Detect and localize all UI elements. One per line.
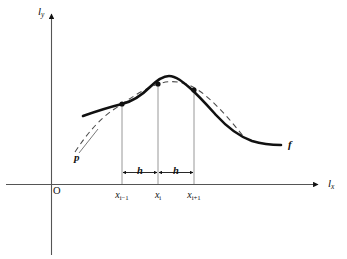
- origin-label: O: [53, 186, 61, 197]
- tick-label-x-i-minus-1: xi−1: [115, 190, 128, 201]
- sample-point-mid: [155, 81, 160, 86]
- sample-point-left: [119, 101, 124, 106]
- figure-canvas: ly lx O xi−1 xi xi+1 h h p f: [0, 0, 347, 259]
- diagram-svg: [0, 0, 347, 259]
- tick-label-x-i-plus-1: xi+1: [187, 190, 200, 201]
- tick-sub-x-i-plus-1: i+1: [192, 194, 201, 201]
- sample-point-right: [191, 87, 196, 92]
- x-axis-label-subscript: x: [331, 182, 334, 191]
- tick-sub-x-i: i: [159, 194, 161, 201]
- y-axis-label: ly: [38, 6, 44, 18]
- y-axis-label-subscript: y: [41, 10, 44, 19]
- polynomial-curve-label-p: p: [74, 152, 80, 163]
- function-curve-f: [83, 76, 281, 145]
- x-axis-label: lx: [328, 178, 334, 190]
- h-label-right: h: [173, 166, 179, 177]
- tick-sub-x-i-minus-1: i−1: [120, 194, 129, 201]
- h-label-left: h: [137, 166, 143, 177]
- tick-label-x-i: xi: [155, 190, 161, 201]
- function-curve-label-f: f: [288, 139, 292, 150]
